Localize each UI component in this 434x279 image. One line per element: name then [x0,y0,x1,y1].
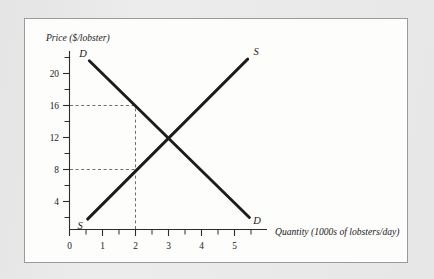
x-tick-label-5: 5 [232,241,237,251]
x-tick-label-3: 3 [166,241,171,251]
y-tick-label-4: 4 [54,197,59,207]
demand-label-bottom: D [252,215,261,226]
y-axis-ticks [63,58,70,218]
y-tick-label-8: 8 [54,165,59,175]
demand-label-top: D [78,48,87,59]
y-tick-label-16: 16 [50,101,60,111]
x-tick-label-2: 2 [133,241,138,251]
x-axis-title: Quantity (1000s of lobsters/day) [275,226,399,238]
x-axis-ticks [70,230,252,237]
x-axis-tick-labels: 0 1 2 3 4 5 [67,241,237,251]
y-tick-label-20: 20 [50,69,60,79]
y-tick-label-12: 12 [50,133,60,143]
x-tick-label-0: 0 [67,241,72,251]
dashed-guides [70,106,136,230]
y-axis-tick-labels: 20 16 12 8 4 [50,69,60,207]
supply-label-bottom: S [77,220,83,231]
supply-demand-chart: 20 16 12 8 4 [25,19,408,263]
chart-panel: 20 16 12 8 4 [24,18,408,263]
figure-root: 20 16 12 8 4 [0,0,434,279]
curves-group [88,59,250,219]
x-tick-label-1: 1 [100,241,105,251]
x-tick-label-4: 4 [199,241,204,251]
y-axis-title: Price ($/lobster) [45,32,110,44]
supply-label-top: S [253,46,259,57]
